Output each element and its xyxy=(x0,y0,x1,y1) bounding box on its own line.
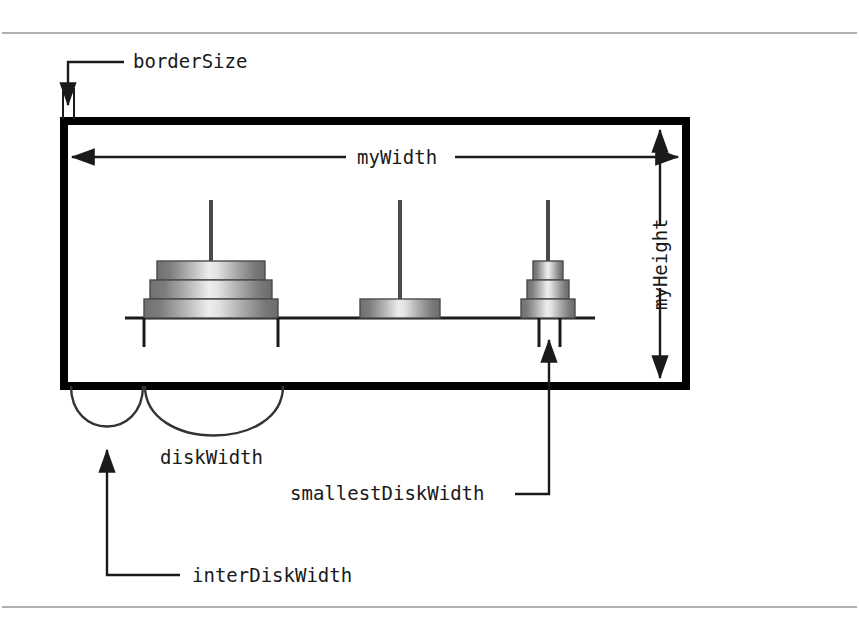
smallest-disk-width-leader xyxy=(515,340,549,494)
inter-disk-width-brace xyxy=(71,386,143,427)
peg-1-disk-middle xyxy=(150,280,272,299)
peg-1 xyxy=(144,200,278,347)
annotation-border-size: borderSize xyxy=(63,50,247,119)
smallest-disk-width-label: smallestDiskWidth xyxy=(290,482,484,504)
my-width-label: myWidth xyxy=(357,146,437,168)
border-size-label: borderSize xyxy=(133,50,247,72)
inter-disk-width-label: interDiskWidth xyxy=(192,564,352,586)
peg-1-disk-top xyxy=(157,261,265,280)
annotation-my-height: myHeight xyxy=(649,130,671,378)
peg-3-disk-middle xyxy=(527,280,569,299)
brace-group xyxy=(71,386,283,436)
peg-2 xyxy=(360,200,440,318)
annotation-my-width: myWidth xyxy=(72,146,678,168)
peg-2-disk-bottom xyxy=(360,299,440,318)
annotation-smallest-disk-width: smallestDiskWidth xyxy=(290,340,549,504)
peg-3-disk-top xyxy=(533,261,563,280)
disk-width-brace xyxy=(145,386,283,436)
peg-1-disk-bottom xyxy=(144,299,278,318)
disk-width-label: diskWidth xyxy=(160,446,263,468)
layout-diagram-svg: borderSize myWidth myHeight xyxy=(0,0,859,634)
inter-disk-width-leader xyxy=(107,450,180,575)
border-size-leader xyxy=(68,62,124,105)
annotation-inter-disk-width: interDiskWidth xyxy=(107,450,352,586)
diagram-canvas: borderSize myWidth myHeight xyxy=(0,0,859,634)
peg-3 xyxy=(521,200,575,347)
my-height-label: myHeight xyxy=(649,218,671,310)
peg-3-disk-bottom xyxy=(521,299,575,318)
annotation-disk-width: diskWidth xyxy=(160,446,263,468)
